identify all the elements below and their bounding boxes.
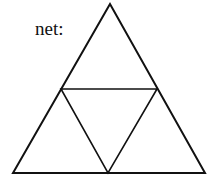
inner-triangle bbox=[61, 89, 157, 173]
tetrahedron-net bbox=[0, 0, 215, 185]
